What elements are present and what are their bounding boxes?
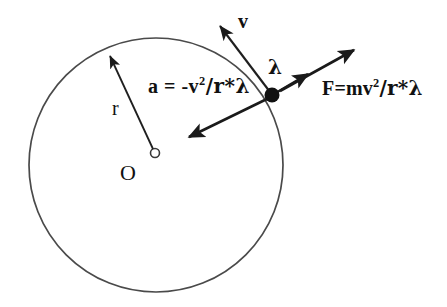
center-label: O <box>120 162 136 184</box>
force-label-prefix: F=mv <box>322 77 373 99</box>
radius-label: r <box>112 98 119 118</box>
acceleration-vector <box>189 97 271 137</box>
particle-dot <box>265 88 280 103</box>
circular-motion-diagram: a = -v2/r*λ F=mv2/r*λ λ v r O <box>0 0 447 307</box>
lambda-label: λ <box>268 57 282 77</box>
acceleration-label-suffix: /r*λ <box>206 74 250 98</box>
center-point-marker <box>151 149 160 158</box>
acceleration-label-exponent: 2 <box>199 74 206 88</box>
acceleration-label-prefix: a = -v <box>148 75 199 97</box>
acceleration-label: a = -v2/r*λ <box>148 76 250 96</box>
force-label-suffix: /r*λ <box>379 76 422 100</box>
diagram-canvas <box>0 0 447 307</box>
force-label: F=mv2/r*λ <box>322 78 423 98</box>
velocity-label: v <box>238 11 248 31</box>
